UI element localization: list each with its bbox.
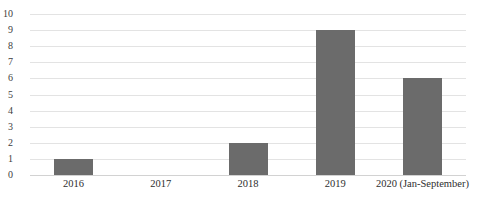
y-axis-tick-label: 1	[0, 154, 13, 164]
bar	[403, 78, 442, 175]
y-axis-tick-label: 7	[0, 57, 13, 67]
y-axis-tick-label: 6	[0, 73, 13, 83]
x-axis-tick-label: 2019	[325, 178, 346, 190]
bar	[229, 143, 268, 175]
y-axis-tick-label: 9	[0, 25, 13, 35]
y-axis-tick-label: 3	[0, 122, 13, 132]
bar	[54, 159, 93, 175]
y-axis-tick-label: 2	[0, 138, 13, 148]
y-axis-tick-label: 4	[0, 106, 13, 116]
x-axis-tick-label: 2018	[238, 178, 259, 190]
axis-baseline	[30, 175, 466, 176]
bars-layer	[30, 14, 466, 175]
x-axis-tick-label: 2020 (Jan-September)	[376, 178, 469, 190]
y-axis-tick-label: 10	[0, 9, 13, 19]
y-axis-tick-label: 0	[0, 170, 13, 180]
bar	[316, 30, 355, 175]
y-axis-tick-label: 5	[0, 90, 13, 100]
x-axis-tick-label: 2016	[63, 178, 84, 190]
bar-chart: 109876543210 20162017201820192020 (Jan-S…	[0, 0, 477, 202]
x-axis-labels: 20162017201820192020 (Jan-September)	[30, 178, 466, 196]
x-axis-tick-label: 2017	[150, 178, 171, 190]
y-axis-tick-label: 8	[0, 41, 13, 51]
